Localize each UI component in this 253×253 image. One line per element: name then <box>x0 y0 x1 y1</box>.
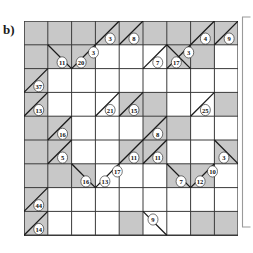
clue-value: 13 <box>35 107 42 114</box>
clue-bubble[interactable]: 7 <box>176 176 186 187</box>
clue-bubble[interactable]: 3 <box>219 152 229 163</box>
clue-value: 12 <box>197 178 204 185</box>
shaded-cell[interactable] <box>24 140 48 164</box>
clue-bubble[interactable]: 12 <box>195 176 205 187</box>
shaded-cell[interactable] <box>24 45 48 69</box>
shaded-cell[interactable] <box>24 164 48 188</box>
shaded-cell[interactable] <box>167 116 191 140</box>
shaded-cell[interactable] <box>72 21 96 45</box>
clue-bubble[interactable]: 3 <box>184 47 194 58</box>
figure-panel: b) 3849112037173371321152516851111316131… <box>0 0 253 253</box>
clue-value: 11 <box>155 154 161 161</box>
puzzle-grid-svg[interactable]: 3849112037173371321152516851111316131771… <box>24 21 238 240</box>
shaded-cell[interactable] <box>143 21 167 45</box>
clue-bubble[interactable]: 20 <box>76 57 86 68</box>
shaded-cell[interactable] <box>48 164 72 188</box>
clue-bubble[interactable]: 11 <box>153 152 163 163</box>
clue-bubble[interactable]: 25 <box>200 104 210 115</box>
clue-bubble[interactable]: 21 <box>105 104 115 115</box>
clue-value: 16 <box>59 131 66 138</box>
clue-value: 11 <box>59 59 65 66</box>
shaded-cell[interactable] <box>214 92 238 116</box>
right-bracket <box>241 16 252 228</box>
clue-bubble[interactable]: 8 <box>153 128 163 139</box>
clue-bubble[interactable]: 10 <box>207 166 217 177</box>
clue-bubble[interactable]: 4 <box>200 33 210 44</box>
clue-bubble[interactable]: 9 <box>224 33 234 44</box>
shaded-cell[interactable] <box>191 211 215 235</box>
clue-bubble[interactable]: 5 <box>58 152 68 163</box>
clue-value: 44 <box>35 202 42 209</box>
puzzle-grid[interactable]: 3849112037173371321152516851111316131771… <box>24 21 238 240</box>
clue-bubble[interactable]: 3 <box>105 33 115 44</box>
shaded-cell[interactable] <box>119 211 143 235</box>
clue-bubble[interactable]: 13 <box>100 176 110 187</box>
shaded-cell[interactable] <box>48 21 72 45</box>
clue-value: 11 <box>131 154 137 161</box>
clue-bubble[interactable]: 15 <box>129 104 139 115</box>
clue-value: 16 <box>83 178 90 185</box>
shaded-cell[interactable] <box>24 21 48 45</box>
clue-value: 17 <box>173 59 180 66</box>
clue-bubble[interactable]: 16 <box>81 176 91 187</box>
clue-value: 15 <box>131 107 138 114</box>
clue-bubble[interactable]: 13 <box>34 104 44 115</box>
shaded-cell[interactable] <box>167 21 191 45</box>
clue-value: 20 <box>78 59 85 66</box>
clue-value: 25 <box>202 107 209 114</box>
clue-value: 13 <box>102 178 109 185</box>
clue-bubble[interactable]: 14 <box>34 223 44 234</box>
clue-bubble[interactable]: 16 <box>58 128 68 139</box>
clue-bubble[interactable]: 11 <box>129 152 139 163</box>
clue-value: 17 <box>114 168 121 175</box>
clue-bubble[interactable]: 11 <box>57 57 67 68</box>
clue-bubble[interactable]: 44 <box>34 200 44 211</box>
clue-bubble[interactable]: 37 <box>34 81 44 92</box>
clue-bubble[interactable]: 17 <box>171 57 181 68</box>
bracket-shape <box>243 17 251 227</box>
panel-label: b) <box>3 22 15 38</box>
shaded-cell[interactable] <box>214 211 238 235</box>
clue-value: 21 <box>107 107 114 114</box>
clue-value: 14 <box>35 226 42 233</box>
clue-bubble[interactable]: 7 <box>153 57 163 68</box>
clue-value: 10 <box>209 168 216 175</box>
clue-bubble[interactable]: 3 <box>88 47 98 58</box>
clue-bubble[interactable]: 9 <box>148 214 158 225</box>
shaded-cell[interactable] <box>143 92 167 116</box>
shaded-cell[interactable] <box>191 45 215 69</box>
clue-bubble[interactable]: 17 <box>112 166 122 177</box>
clue-bubble[interactable]: 8 <box>129 33 139 44</box>
right-bracket-svg <box>241 16 252 228</box>
clue-value: 37 <box>35 83 42 90</box>
shaded-cell[interactable] <box>24 116 48 140</box>
